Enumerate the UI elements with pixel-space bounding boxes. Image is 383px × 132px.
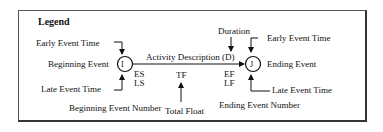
late-event-time-arrow-end xyxy=(251,75,270,91)
total-float-label: Total Float xyxy=(165,106,204,116)
beginning-event-label: Beginning Event xyxy=(48,59,109,69)
ending-event-label: Ending Event xyxy=(267,59,316,69)
late-event-time-arrow-begin xyxy=(114,75,122,90)
ls-label: LS xyxy=(134,78,145,88)
early-event-time-arrow-end xyxy=(251,38,258,52)
legend-title: Legend xyxy=(38,17,70,27)
activity-description-label: Activity Description xyxy=(146,52,220,62)
lf-label: LF xyxy=(224,78,235,88)
begin-late-event-time-label: Late Event Time xyxy=(41,84,101,94)
tf-label: TF xyxy=(176,70,187,80)
early-event-time-arrow-begin xyxy=(114,42,122,54)
beginning-event-node xyxy=(118,57,133,72)
duration-symbol: (D) xyxy=(222,52,235,62)
ending-node-number: J xyxy=(250,60,253,70)
end-late-event-time-label: Late Event Time xyxy=(272,85,332,95)
begin-early-event-time-label: Early Event Time xyxy=(36,38,100,48)
beginning-node-number: I xyxy=(121,60,124,70)
end-early-event-time-label: Early Event Time xyxy=(267,33,331,43)
beginning-event-number-label: Beginning Event Number xyxy=(69,103,161,113)
duration-label: Duration xyxy=(218,26,250,36)
ending-event-number-label: Ending Event Number xyxy=(219,100,300,110)
